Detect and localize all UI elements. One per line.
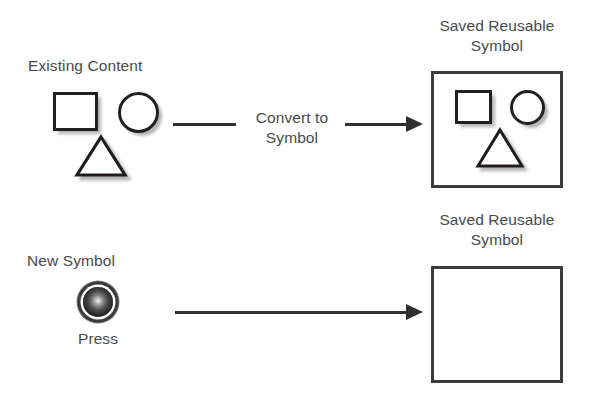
- symbol-box-bottom: [431, 266, 563, 383]
- triangle-icon: [475, 127, 525, 169]
- saved-reusable-symbol-label-top: Saved Reusable Symbol: [418, 16, 576, 57]
- diagram-canvas: Existing Content Convert to Symbol Saved…: [0, 0, 595, 402]
- glossy-button-icon[interactable]: [83, 287, 113, 317]
- arrow-right-icon: [175, 311, 408, 314]
- triangle-icon: [74, 134, 128, 178]
- saved-reusable-symbol-label-bottom: Saved Reusable Symbol: [418, 210, 576, 251]
- arrow-right-icon: [406, 116, 423, 132]
- arrow-right-icon: [173, 123, 236, 126]
- existing-content-label: Existing Content: [28, 56, 142, 76]
- arrow-right-icon: [406, 304, 423, 320]
- circle-icon: [510, 90, 545, 125]
- new-symbol-label: New Symbol: [27, 251, 115, 271]
- square-icon: [53, 92, 98, 131]
- circle-icon: [118, 92, 159, 133]
- square-icon: [455, 90, 492, 124]
- arrow-right-icon: [345, 123, 408, 126]
- press-label: Press: [66, 329, 130, 349]
- convert-to-symbol-label: Convert to Symbol: [240, 108, 344, 149]
- symbol-box-top: [431, 71, 563, 188]
